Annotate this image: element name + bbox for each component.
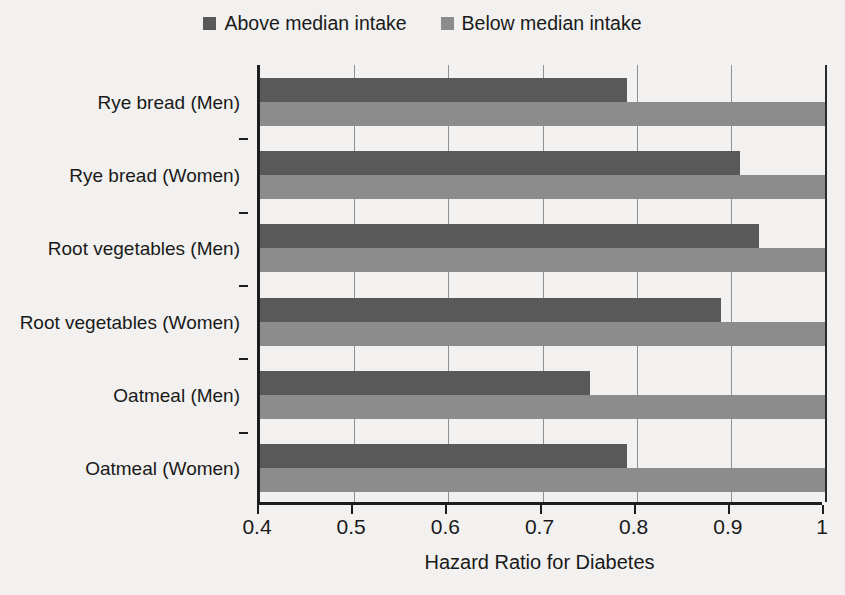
y-axis-category-label: Oatmeal (Men): [113, 386, 240, 405]
gridline: [354, 65, 355, 502]
square-swatch-icon: [441, 17, 454, 30]
bar-below-median: [260, 322, 825, 346]
x-axis-tick: [634, 505, 636, 514]
gridline: [731, 65, 732, 502]
x-axis-tick-label: 1: [816, 516, 828, 537]
bar-below-median: [260, 102, 825, 126]
chart-legend: Above median intakeBelow median intake: [0, 14, 845, 34]
x-axis-tick: [540, 505, 542, 514]
x-axis-tick-label: 0.5: [337, 516, 366, 537]
x-axis-tick-label: 0.6: [431, 516, 460, 537]
y-axis-category-labels: Rye bread (Men)Rye bread (Women)Root veg…: [0, 65, 248, 505]
y-axis-category-label: Oatmeal (Women): [85, 459, 240, 478]
bar-above-median: [260, 371, 590, 395]
bar-below-median: [260, 248, 825, 272]
x-axis-tick: [822, 505, 824, 514]
legend-entry: Above median intake: [203, 14, 406, 34]
plot-inner: [260, 65, 822, 502]
gridline: [543, 65, 544, 502]
x-axis-tick-label: 0.8: [619, 516, 648, 537]
x-axis-ticks: [257, 505, 822, 515]
legend-label: Below median intake: [462, 14, 642, 34]
y-axis-tick: [239, 285, 248, 287]
gridline: [825, 65, 827, 502]
bar-above-median: [260, 298, 721, 322]
gridline: [448, 65, 449, 502]
y-axis-category-label: Rye bread (Men): [97, 92, 240, 111]
square-swatch-icon: [203, 17, 216, 30]
bar-below-median: [260, 395, 825, 419]
x-axis-tick-labels: 0.40.50.60.70.80.91: [257, 516, 822, 544]
x-axis-tick: [445, 505, 447, 514]
hazard-ratio-bar-chart: Above median intakeBelow median intake R…: [0, 0, 845, 595]
x-axis-tick-label: 0.7: [525, 516, 554, 537]
y-axis-tick: [239, 138, 248, 140]
bar-above-median: [260, 224, 759, 248]
x-axis-tick-label: 0.4: [242, 516, 271, 537]
y-axis-category-label: Root vegetables (Men): [48, 239, 240, 258]
bar-above-median: [260, 78, 627, 102]
plot-area: [257, 65, 822, 505]
x-axis-tick: [351, 505, 353, 514]
x-axis-tick: [728, 505, 730, 514]
x-axis-tick: [257, 505, 259, 514]
bar-above-median: [260, 151, 740, 175]
y-axis-category-label: Root vegetables (Women): [20, 312, 240, 331]
bar-below-median: [260, 468, 825, 492]
y-axis-category-label: Rye bread (Women): [69, 166, 240, 185]
x-axis-tick-label: 0.9: [713, 516, 742, 537]
y-axis-tick: [239, 432, 248, 434]
bar-above-median: [260, 444, 627, 468]
legend-entry: Below median intake: [441, 14, 642, 34]
y-axis-tick: [239, 212, 248, 214]
gridline: [637, 65, 638, 502]
x-axis-title: Hazard Ratio for Diabetes: [257, 552, 822, 572]
legend-label: Above median intake: [224, 14, 406, 34]
bar-below-median: [260, 175, 825, 199]
y-axis-tick: [239, 358, 248, 360]
